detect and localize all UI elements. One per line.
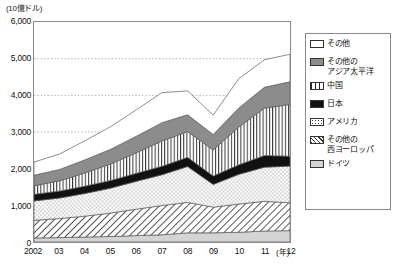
- y-axis-tick-label: 2,000: [1, 164, 31, 174]
- legend-swatch-other-western-europe: [310, 136, 324, 144]
- legend-label-other-western-europe: その他の 西ヨーロッパ: [327, 135, 373, 154]
- x-axis-tick-label: 06: [132, 246, 141, 256]
- y-axis-tick-label: 4,000: [1, 90, 31, 100]
- x-axis-tick-label: 05: [106, 246, 115, 256]
- legend-item-germany[interactable]: ドイツ: [310, 159, 387, 172]
- legend-swatch-other: [310, 40, 324, 48]
- legend-label-china: 中国: [327, 81, 342, 91]
- legend-item-china[interactable]: 中国: [310, 81, 387, 94]
- legend-item-japan[interactable]: 日本: [310, 99, 387, 112]
- legend: その他その他の アジア太平洋中国日本アメリカその他の 西ヨーロッパドイツ: [305, 33, 391, 210]
- legend-swatch-usa: [310, 118, 324, 126]
- legend-item-other[interactable]: その他: [310, 39, 387, 52]
- x-axis-tick-label: 07: [157, 246, 166, 256]
- legend-label-other-asia-pacific: その他の アジア太平洋: [327, 57, 373, 76]
- x-axis-tick-label: 11: [261, 246, 269, 256]
- x-axis-tick-label: 08: [183, 246, 192, 256]
- plot-svg: [34, 22, 290, 242]
- x-axis-unit-label: (年): [276, 246, 289, 257]
- legend-swatch-germany: [310, 160, 324, 168]
- x-axis-tick-label: 03: [54, 246, 63, 256]
- x-axis-tick-label: 2002: [24, 246, 42, 256]
- plot-area: [33, 21, 291, 243]
- y-axis-tick-label: 3,000: [1, 127, 31, 137]
- legend-item-usa[interactable]: アメリカ: [310, 117, 387, 130]
- x-axis-tick-label: 04: [80, 246, 89, 256]
- y-axis-tick-group: 01,0002,0003,0004,0005,0006,000: [0, 0, 31, 275]
- legend-swatch-china: [310, 82, 324, 90]
- legend-label-usa: アメリカ: [327, 117, 358, 127]
- area-series-group: [34, 54, 290, 242]
- legend-item-other-asia-pacific[interactable]: その他の アジア太平洋: [310, 57, 387, 76]
- y-axis-tick-label: 1,000: [1, 201, 31, 211]
- legend-swatch-other-asia-pacific: [310, 58, 324, 66]
- x-axis-tick-label: 10: [235, 246, 244, 256]
- y-axis-tick-label: 6,000: [1, 16, 31, 26]
- legend-item-other-western-europe[interactable]: その他の 西ヨーロッパ: [310, 135, 387, 154]
- legend-label-germany: ドイツ: [327, 159, 350, 169]
- stacked-area-chart: (10億ドル) 01,0002,0003,0004,0005,0006,000: [0, 0, 396, 275]
- legend-label-japan: 日本: [327, 99, 342, 109]
- y-axis-tick-label: 5,000: [1, 53, 31, 63]
- x-axis-tick-label: 09: [209, 246, 218, 256]
- caption-partial: [96, 264, 326, 271]
- legend-label-other: その他: [327, 39, 350, 49]
- legend-swatch-japan: [310, 100, 324, 108]
